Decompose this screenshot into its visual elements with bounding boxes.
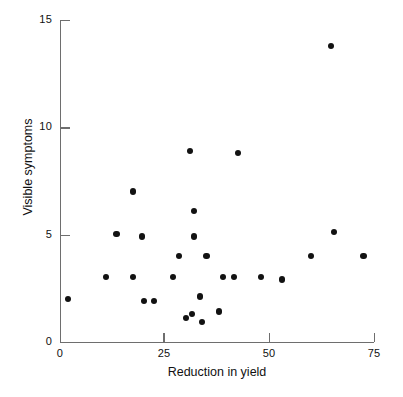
data-point [130,188,136,194]
data-point [331,229,337,235]
data-point [328,43,334,49]
y-tick-15 [61,20,70,21]
data-point [170,274,176,280]
y-tick-label-0: 0 [26,335,52,347]
data-point [130,274,136,280]
data-point [65,296,71,302]
x-tick-25 [163,333,164,342]
data-point [176,253,182,259]
y-tick-10 [61,127,70,128]
x-tick-50 [269,333,270,342]
x-tick-label-0: 0 [45,347,75,359]
data-point [191,233,197,239]
data-point [191,208,197,214]
x-tick-label-25: 25 [149,347,179,359]
data-point [197,293,203,299]
data-point [183,315,189,321]
y-axis-line [60,20,61,343]
data-point [235,150,241,156]
x-tick-label-50: 50 [254,347,284,359]
data-point [139,233,145,239]
y-tick-5 [61,235,70,236]
x-tick-75 [374,333,375,342]
data-point [199,319,205,325]
data-point [308,253,314,259]
data-point [151,298,157,304]
data-point [258,274,264,280]
x-axis-line [60,342,374,343]
data-point [360,253,366,259]
scatter-plot-figure: 15 10 5 0 0 25 50 75 Reduction in yield … [0,0,403,397]
y-tick-label-15: 15 [26,13,52,25]
data-point [220,274,226,280]
x-tick-label-75: 75 [359,347,389,359]
y-axis-title: Visible symptoms [21,77,35,257]
data-point [203,253,209,259]
data-point [189,311,195,317]
data-point [187,148,193,154]
data-point [103,274,109,280]
data-point [216,308,222,314]
data-point [141,298,147,304]
data-point [113,231,119,237]
data-point [279,276,285,282]
x-axis-title: Reduction in yield [60,365,374,379]
data-point [231,274,237,280]
